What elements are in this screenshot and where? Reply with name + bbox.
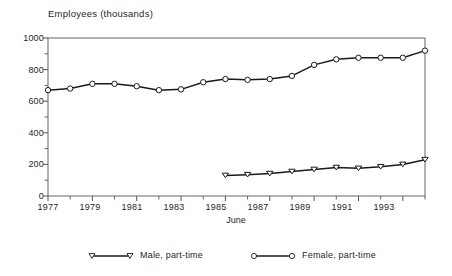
- data-point-marker: [289, 73, 294, 78]
- circle-icon: [251, 253, 256, 258]
- plot-frame: [48, 38, 425, 196]
- legend-male-sample: [88, 250, 134, 262]
- circle-icon: [289, 253, 294, 258]
- data-point-marker: [90, 81, 95, 86]
- data-point-marker: [422, 48, 427, 53]
- data-point-marker: [334, 57, 339, 62]
- data-point-marker: [112, 81, 117, 86]
- chart-container: Employees (thousands) 1000 800 600 400 2…: [0, 0, 452, 276]
- chart-legend: Male, part-time Female, part-time: [0, 248, 452, 268]
- data-point-marker: [201, 80, 206, 85]
- data-point-marker: [45, 87, 50, 92]
- data-point-marker: [267, 76, 272, 81]
- data-point-marker: [134, 83, 139, 88]
- data-point-marker: [245, 77, 250, 82]
- legend-label-female: Female, part-time: [302, 250, 376, 260]
- series-line-male: [225, 160, 425, 176]
- legend-female-sample: [250, 250, 296, 262]
- data-point-marker: [223, 76, 228, 81]
- data-point-marker: [356, 55, 361, 60]
- data-point-marker: [156, 87, 161, 92]
- data-point-marker: [400, 55, 405, 60]
- data-point-marker: [378, 55, 383, 60]
- data-point-marker: [178, 87, 183, 92]
- series-line-female: [48, 51, 425, 91]
- data-point-marker: [311, 62, 316, 67]
- legend-label-male: Male, part-time: [140, 250, 203, 260]
- plot-area: [0, 0, 452, 276]
- data-point-marker: [67, 86, 72, 91]
